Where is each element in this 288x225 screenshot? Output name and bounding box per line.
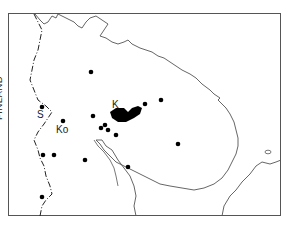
island — [265, 150, 271, 154]
label-k: K — [112, 100, 119, 110]
white-sea-shore — [222, 160, 281, 216]
label-ko: Ko — [56, 125, 68, 135]
kola-bay — [94, 140, 118, 186]
label-s: S — [37, 110, 44, 120]
label-finland: FINLAND — [0, 76, 4, 120]
